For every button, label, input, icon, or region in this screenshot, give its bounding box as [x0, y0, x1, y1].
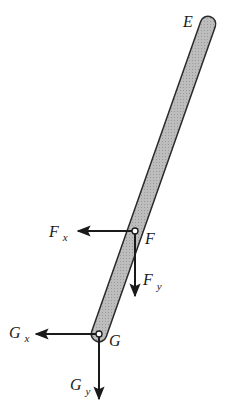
label-fy-sub: y — [156, 280, 162, 292]
label-fy: F y — [142, 271, 162, 292]
label-fx: F x — [48, 223, 68, 243]
label-gy-base: G — [70, 376, 82, 393]
label-fx-sub: x — [62, 231, 68, 243]
pivot-f-icon — [132, 228, 138, 234]
label-g: G — [109, 332, 121, 349]
label-f: F — [144, 230, 155, 247]
label-fx-base: F — [48, 223, 59, 240]
label-e: E — [182, 13, 193, 30]
label-gx-sub: x — [24, 332, 30, 344]
label-gx: G x — [9, 324, 30, 344]
pivot-g-icon — [96, 331, 102, 337]
label-gx-base: G — [9, 324, 21, 341]
label-gy: G y — [70, 376, 91, 397]
free-body-diagram: E F G F x F y G x G y — [0, 0, 235, 416]
label-gy-sub: y — [85, 385, 91, 397]
label-fy-base: F — [142, 271, 153, 288]
